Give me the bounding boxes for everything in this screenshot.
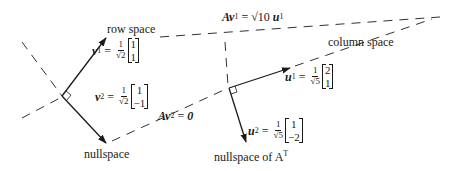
nullspace-AT-label: nullspace of AT: [214, 150, 288, 163]
Av1-mapping-line: [160, 17, 440, 37]
row-space-line-left: [22, 42, 62, 96]
v2-equation: v2 = 1√2 1−1: [95, 84, 148, 109]
u2-arrow: [229, 88, 246, 142]
nullspace-line-left: [22, 98, 60, 118]
v1-equation: v1 = 1√2 11: [92, 38, 139, 63]
subspace-diagram: [0, 0, 455, 171]
u1-arrow: [229, 68, 290, 88]
u2-equation: u2 = 1√5 1−2: [248, 118, 303, 143]
Av1-mapping-line-down: [225, 42, 228, 86]
Av2-equation: Av2 = 0: [158, 110, 193, 122]
column-space-label: column space: [328, 36, 394, 48]
right-angle-marker-left: [66, 91, 71, 100]
u1-equation: u1 = 1√5 21: [285, 64, 333, 89]
nullspace-label: nullspace: [84, 148, 129, 160]
Av1-equation: Av1 = √10 u1: [222, 11, 284, 23]
row-space-label: row space: [107, 23, 155, 35]
